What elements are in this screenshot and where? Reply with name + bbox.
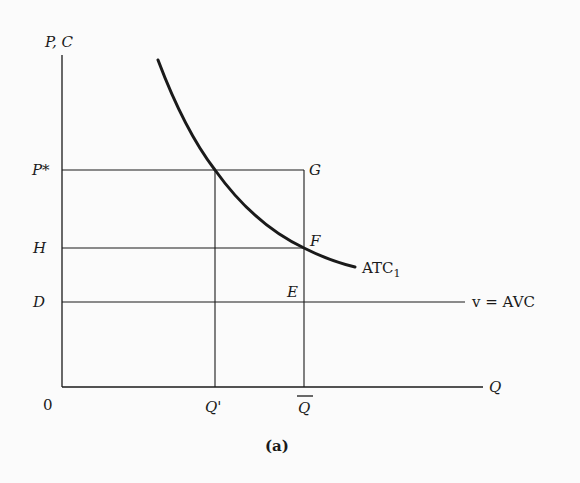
origin-label: 0 [43, 396, 53, 414]
p-star-label: P* [31, 161, 50, 179]
d-label: D [32, 293, 45, 311]
figure-caption: (a) [265, 437, 289, 455]
q-bar-label: Q [298, 399, 310, 417]
y-axis-label: P, C [44, 33, 74, 51]
point-g-label: G [309, 161, 321, 179]
h-label: H [32, 239, 47, 257]
q-prime-label: Q' [205, 398, 221, 416]
atc-label: ATC1 [361, 259, 401, 280]
x-axis-label: Q [489, 378, 501, 396]
point-e-label: E [286, 283, 298, 301]
point-f-label: F [309, 232, 321, 250]
avc-label: v = AVC [471, 293, 535, 311]
cost-diagram: P, C Q 0 P* H D Q' Q G F E ATC1 v = AVC … [0, 0, 580, 483]
atc-curve [158, 60, 355, 267]
